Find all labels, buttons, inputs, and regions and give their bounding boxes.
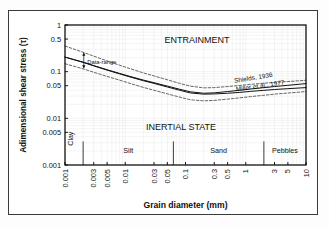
- ytick-label-4: 0.01: [47, 114, 61, 123]
- ytick-label-2: 0.1: [51, 67, 61, 76]
- xtick-label-0: 0.001: [61, 169, 70, 188]
- chart-svg: Shields, 1936Miller et al., 1977ENTRAINM…: [0, 0, 329, 227]
- class-label-silt: Silt: [123, 146, 133, 155]
- ytick-label-5: 0.005: [43, 128, 62, 137]
- annotation-entrainment: ENTRAINMENT: [165, 35, 231, 45]
- ytick-label-6: 0.001: [43, 161, 62, 170]
- xtick-label-2: 0.005: [103, 169, 112, 188]
- xtick-label-4: 0.03: [150, 169, 159, 183]
- xtick-label-5: 0.05: [163, 169, 172, 183]
- ytick-label-3: 0.05: [47, 81, 61, 90]
- xtick-label-9: 1: [241, 169, 250, 173]
- y-axis-title: Adimensional shear stress (τ): [19, 37, 28, 153]
- xtick-label-11: 5: [283, 169, 292, 173]
- ytick-label-1: 0.5: [51, 35, 61, 44]
- figure-canvas: Shields, 1936Miller et al., 1977ENTRAINM…: [0, 0, 329, 227]
- xtick-label-3: 0.01: [121, 169, 130, 183]
- class-label-pebbles: Pebbles: [272, 146, 298, 155]
- x-axis-title: Grain diameter (mm): [143, 200, 227, 210]
- ytick-label-0: 1: [57, 21, 61, 30]
- annotation-inertial-state: INERTIAL STATE: [146, 122, 216, 132]
- xtick-label-8: 0.5: [223, 169, 232, 179]
- xtick-label-12: 10: [302, 169, 311, 177]
- annotation-data-range: Data-range: [87, 59, 116, 65]
- xtick-label-10: 3: [270, 169, 279, 173]
- xtick-label-7: 0.3: [210, 169, 219, 179]
- xtick-label-1: 0.003: [89, 169, 98, 188]
- class-label-clay: Clay: [67, 131, 75, 146]
- xtick-label-6: 0.1: [181, 169, 190, 179]
- class-label-sand: Sand: [210, 146, 227, 155]
